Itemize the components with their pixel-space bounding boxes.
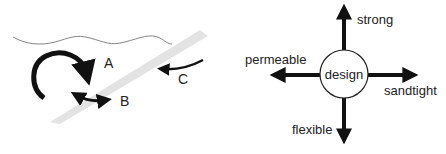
center-label: design	[325, 67, 363, 82]
label-sandtight: sandtight	[384, 83, 437, 98]
label-flexible: flexible	[292, 122, 332, 137]
left-diagram: A B C	[13, 30, 208, 124]
curved-arrow-icon	[162, 60, 203, 69]
water-line	[13, 36, 172, 44]
label-strong: strong	[357, 12, 393, 27]
label-a: A	[104, 55, 114, 71]
label-b: B	[120, 93, 129, 109]
rotation-arrow-icon	[34, 53, 87, 98]
label-c: C	[178, 71, 188, 87]
diagram-canvas: A B C design strong permeable sandtight …	[0, 0, 446, 154]
label-permeable: permeable	[245, 52, 306, 67]
right-diagram: design strong permeable sandtight flexib…	[245, 10, 437, 138]
